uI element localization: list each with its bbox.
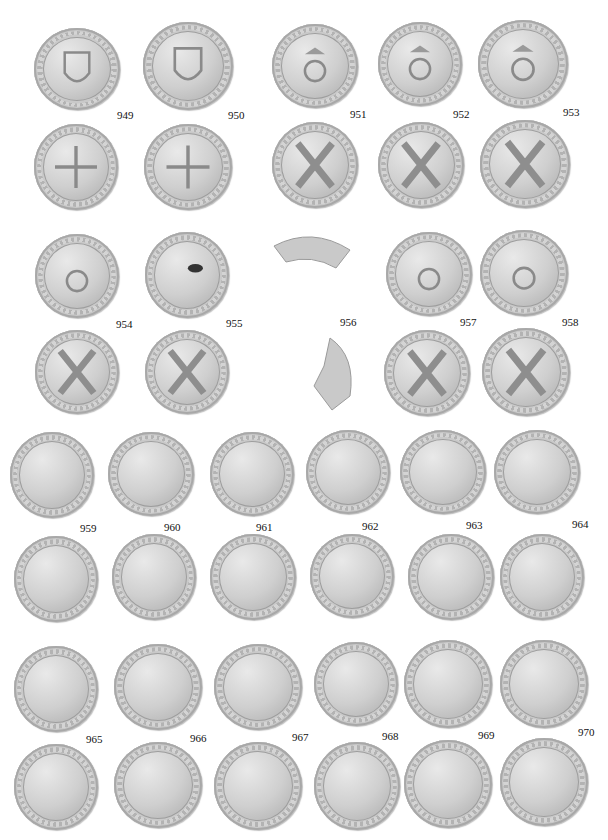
coin-967-reverse-saltire [214,742,302,830]
coin-951-obverse-thistle [272,24,358,108]
coin-953-reverse-saltire [480,120,570,208]
coin-plate: 949 950 951 952 953 954 955 956 957 958 [0,0,608,840]
catalogue-number: 970 [578,726,595,738]
catalogue-number: 966 [190,732,207,744]
coin-961-reverse-saltire [210,534,296,620]
catalogue-number: 952 [453,108,470,120]
saltire-icon [482,328,570,416]
catalogue-number: 959 [80,522,97,534]
catalogue-number: 960 [164,521,181,533]
catalogue-number: 961 [256,521,273,533]
coin-959-obverse-thistle [10,432,94,518]
catalogue-number: 968 [382,730,399,742]
coin-956-obverse-fragment [272,232,352,272]
coin-970-obverse-thistle [500,640,588,728]
catalogue-number: 950 [228,109,245,121]
coin-953-obverse-thistle [478,20,568,108]
coin-952-obverse-thistle [378,22,462,106]
coin-958-reverse-saltire [482,328,570,416]
catalogue-number: 962 [362,520,379,532]
coin-956-reverse-fragment [310,336,356,412]
coin-969-obverse-thistle [404,640,492,728]
catalogue-number: 954 [116,318,133,330]
coin-968-obverse-thistle [314,642,398,726]
catalogue-number: 963 [466,519,483,531]
thistle-icon [35,234,119,318]
saltire-icon [384,330,470,416]
coin-964-reverse-saltire [500,534,584,620]
coin-962-reverse-saltire [310,534,394,618]
coin-963-reverse-saltire [408,534,494,620]
coin-965-reverse-saltire [14,744,98,830]
cross-fleury-icon [144,124,232,210]
catalogue-number: 951 [350,108,367,120]
catalogue-number: 955 [226,317,243,329]
shield-icon [143,22,233,110]
coin-957-reverse-saltire [384,330,470,416]
coin-961-obverse-thistle [210,432,294,516]
thistle-icon [386,232,472,316]
thistle-icon [145,232,229,318]
coin-960-reverse-saltire [112,534,196,620]
saltire-icon [272,122,358,208]
coin-954-reverse-saltire [35,330,119,414]
coin-969-reverse-saltire [404,740,492,828]
catalogue-number: 956 [340,316,357,328]
coin-960-obverse-thistle [108,432,194,516]
catalogue-number: 965 [86,733,103,745]
coin-949-obverse-shield [34,28,120,110]
coin-951-reverse-saltire [272,122,358,208]
coin-965-obverse-thistle [14,646,98,732]
coin-952-reverse-saltire [378,122,464,208]
shield-icon [34,28,120,110]
coin-955-obverse-thistle [145,232,229,318]
coin-957-obverse-thistle [386,232,472,316]
thistle-icon [478,20,568,108]
catalogue-number: 958 [562,316,579,328]
saltire-icon [378,122,464,208]
coin-950-obverse-shield [143,22,233,110]
coin-963-obverse-thistle [400,430,486,514]
coin-949-reverse-cross [34,124,118,210]
coin-964-obverse-thistle [494,430,580,514]
catalogue-number: 964 [572,518,589,530]
coin-966-obverse-thistle [114,644,202,730]
saltire-icon [35,330,119,414]
coin-954-obverse-thistle [35,234,119,318]
cross-fleury-icon [34,124,118,210]
saltire-icon [480,120,570,208]
catalogue-number: 953 [563,106,580,118]
coin-970-reverse-saltire [500,738,588,826]
thistle-icon [272,24,358,108]
coin-958-obverse-thistle [480,230,568,316]
thistle-icon [378,22,462,106]
catalogue-number: 967 [292,731,309,743]
catalogue-number: 969 [478,729,495,741]
saltire-icon [145,330,229,414]
coin-959-reverse-saltire [14,536,98,622]
catalogue-number: 957 [460,316,477,328]
coin-966-reverse-saltire [114,742,202,828]
coin-955-reverse-saltire [145,330,229,414]
thistle-icon [480,230,568,316]
coin-968-reverse-saltire [314,742,400,830]
coin-967-obverse-thistle [214,644,302,730]
coin-950-reverse-cross [144,124,232,210]
catalogue-number: 949 [117,109,134,121]
coin-962-obverse-thistle [306,430,390,514]
